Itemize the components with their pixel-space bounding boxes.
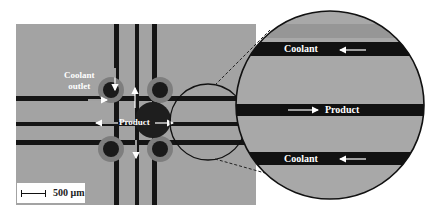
scale-tick-left bbox=[21, 190, 22, 197]
label-coolant-outlet: Coolant outlet bbox=[64, 70, 95, 92]
label-product-mag: Product bbox=[325, 105, 359, 115]
label-coolant-bottom: Coolant bbox=[284, 154, 318, 164]
scale-bar-label: 500 μm bbox=[53, 187, 85, 198]
zoom-source-circle bbox=[170, 84, 246, 160]
annotation-overlay bbox=[0, 0, 431, 214]
scale-bar-line bbox=[21, 193, 45, 194]
scale-bar: 500 μm bbox=[17, 183, 85, 203]
label-coolant-top: Coolant bbox=[284, 44, 318, 54]
scale-tick-right bbox=[45, 190, 46, 197]
label-product-center: Product bbox=[119, 118, 150, 127]
